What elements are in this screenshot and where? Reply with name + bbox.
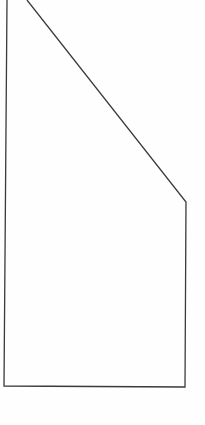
pentagon-outline-drawing [0,0,205,425]
drawing-canvas [0,0,205,425]
shape-outline [4,0,186,387]
